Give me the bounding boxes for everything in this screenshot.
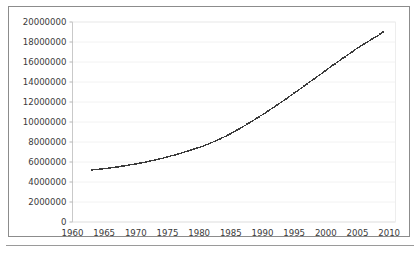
bottom-divider — [6, 245, 414, 246]
y-tick-label: 2000000 — [28, 197, 66, 207]
y-tick-label: 0 — [61, 217, 66, 227]
x-tick-label: 1990 — [252, 228, 274, 238]
x-tick-label: 1980 — [188, 228, 210, 238]
y-tick-label: 20000000 — [23, 17, 67, 27]
x-axis-tick-labels: 1960196519701975198019851990199520002005… — [62, 228, 401, 238]
data-series-markers — [91, 31, 384, 170]
chart-page: 0200000040000006000000800000010000000120… — [0, 0, 420, 253]
y-tick-label: 8000000 — [28, 137, 66, 147]
x-tick-label: 1985 — [220, 228, 242, 238]
y-tick-label: 18000000 — [23, 37, 67, 47]
x-tick-label: 1965 — [93, 228, 115, 238]
x-tick-label: 2010 — [378, 228, 400, 238]
gridlines — [73, 22, 396, 222]
data-point-marker — [382, 31, 383, 32]
x-tick-label: 2005 — [347, 228, 369, 238]
y-tick-label: 12000000 — [23, 97, 67, 107]
y-tick-label: 10000000 — [23, 117, 67, 127]
y-tick-label: 4000000 — [28, 177, 66, 187]
x-tick-label: 1995 — [283, 228, 305, 238]
x-tick-label: 1960 — [62, 228, 84, 238]
y-tick-label: 14000000 — [23, 77, 67, 87]
x-tick-label: 1975 — [157, 228, 179, 238]
population-growth-chart: 0200000040000006000000800000010000000120… — [0, 0, 420, 253]
y-tick-label: 6000000 — [28, 157, 66, 167]
x-tick-label: 1970 — [125, 228, 147, 238]
y-tick-label: 16000000 — [23, 57, 67, 67]
x-tick-label: 2000 — [315, 228, 337, 238]
y-axis-tick-labels: 0200000040000006000000800000010000000120… — [23, 17, 67, 227]
